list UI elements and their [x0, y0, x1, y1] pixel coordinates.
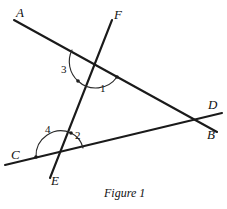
angle-arc-2-tick	[69, 131, 73, 135]
angle-arc-1-tick	[115, 75, 119, 79]
point-label-f: F	[114, 8, 122, 21]
angle-arc-1	[78, 77, 117, 88]
angle-label-2: 2	[75, 130, 81, 141]
angle-label-3: 3	[61, 64, 67, 75]
point-label-b: B	[207, 128, 215, 141]
line-ab	[14, 20, 217, 132]
lines-group	[5, 20, 222, 178]
angle-label-4: 4	[45, 124, 51, 135]
geometry-figure: AFDBCE 1234 Figure 1	[0, 0, 227, 209]
figure-canvas	[0, 0, 227, 209]
line-ef	[50, 20, 112, 178]
angle-label-1: 1	[100, 83, 106, 94]
angle-arc-4-tick	[34, 155, 38, 159]
point-label-c: C	[11, 148, 20, 161]
angle-arcs-group	[34, 50, 119, 159]
point-label-e: E	[51, 174, 59, 187]
point-label-a: A	[16, 6, 24, 19]
figure-caption: Figure 1	[104, 186, 145, 201]
point-label-d: D	[208, 98, 217, 111]
